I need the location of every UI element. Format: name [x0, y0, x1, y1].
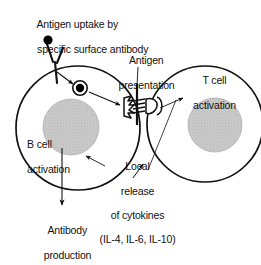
antibody-production-line1: Antibody	[47, 224, 87, 236]
antigen-presentation-line2: presentation	[119, 79, 175, 91]
cytokines-line1: Local	[125, 160, 149, 172]
cytokines-line4: (IL-4, IL-6, IL-10)	[100, 233, 176, 245]
label-b-cell-activation: B cell activation	[16, 126, 70, 187]
label-antigen-presentation: Antigen presentation	[104, 42, 178, 103]
label-antibody-production: Antibody production	[22, 212, 102, 265]
cytokines-line2: release	[121, 185, 154, 197]
internalized-antigen-icon	[73, 81, 87, 95]
t-cell-activation-line1: T cell	[202, 74, 226, 86]
antibody-production-line2: production	[44, 249, 92, 261]
antigen-presentation-line1: Antigen	[129, 54, 164, 66]
b-cell-activation-line1: B cell	[27, 138, 52, 150]
cytokines-line3: of cytokines	[111, 209, 165, 221]
label-t-cell-activation: T cell activation	[176, 62, 242, 123]
antigen-uptake-line1: Antigen uptake by	[37, 18, 119, 30]
b-cell-activation-line2: activation	[27, 163, 70, 175]
t-cell-activation-line2: activation	[193, 99, 236, 111]
